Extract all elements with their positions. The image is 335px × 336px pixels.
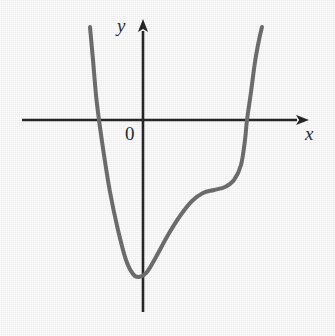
origin-label: 0 <box>125 124 135 143</box>
graph-canvas <box>0 0 335 336</box>
graph-figure: y x 0 <box>0 0 335 336</box>
y-axis-label: y <box>117 16 125 35</box>
function-curve <box>90 27 262 277</box>
x-axis-label: x <box>305 124 313 143</box>
